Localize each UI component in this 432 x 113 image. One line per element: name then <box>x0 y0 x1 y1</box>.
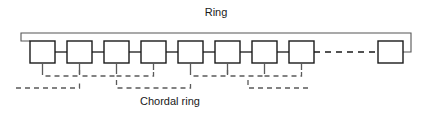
node-box <box>289 41 314 63</box>
chord-upper-n1-n2 <box>43 70 80 76</box>
chord-lower-n7-right <box>248 80 311 88</box>
node-box <box>141 41 166 63</box>
node-box <box>104 41 129 63</box>
node-box <box>215 41 240 63</box>
chord-upper-n6-n7 <box>228 70 265 76</box>
node-box <box>30 41 55 63</box>
node-box <box>67 41 92 63</box>
diagram-canvas: Ring Chordal ring <box>0 0 432 113</box>
node-box <box>252 41 277 63</box>
node-box <box>378 41 403 63</box>
chord-upper-row <box>43 70 302 76</box>
chordal-ring-figure: Ring Chordal ring <box>0 0 432 113</box>
chord-lower-row <box>16 80 311 88</box>
chord-stub-group <box>43 63 302 70</box>
chord-upper-n2-n3 <box>80 70 117 76</box>
ring-label: Ring <box>205 6 228 18</box>
chord-upper-n7-n8 <box>265 70 302 76</box>
node-box <box>178 41 203 63</box>
chord-lower-n3-n6 <box>117 80 191 88</box>
chord-lower-left-n2 <box>16 80 80 88</box>
chord-upper-n5-n6 <box>191 70 228 76</box>
chord-upper-n3-n4 <box>117 70 154 76</box>
chordal-ring-label: Chordal ring <box>140 95 200 107</box>
